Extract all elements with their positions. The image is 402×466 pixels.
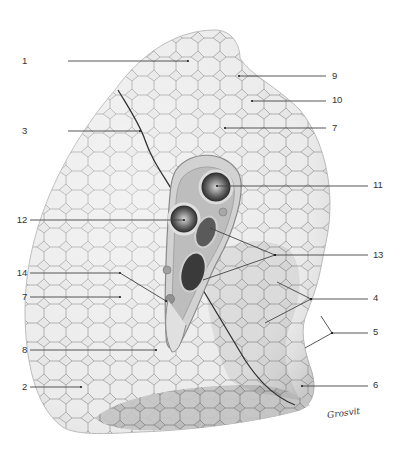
label-7a: 7	[332, 123, 337, 133]
label-3: 3	[5, 126, 27, 136]
label-7b: 7	[5, 292, 27, 302]
label-14: 14	[5, 268, 27, 278]
label-12: 12	[5, 215, 27, 225]
label-5: 5	[373, 327, 378, 337]
label-4: 4	[373, 293, 378, 303]
label-1: 1	[5, 56, 27, 66]
label-10: 10	[332, 95, 342, 105]
lung-illustration	[0, 0, 402, 466]
lymph-node	[163, 266, 171, 274]
label-11: 11	[373, 180, 382, 190]
label-9: 9	[332, 71, 337, 81]
label-8: 8	[5, 345, 27, 355]
leader-line-5	[305, 333, 332, 348]
leader-line-5	[321, 316, 332, 333]
lymph-node	[219, 208, 227, 216]
label-13: 13	[373, 250, 383, 260]
label-6: 6	[373, 380, 378, 390]
label-2: 2	[5, 382, 27, 392]
lymph-node	[166, 295, 175, 304]
pulmonary-artery	[200, 171, 232, 203]
